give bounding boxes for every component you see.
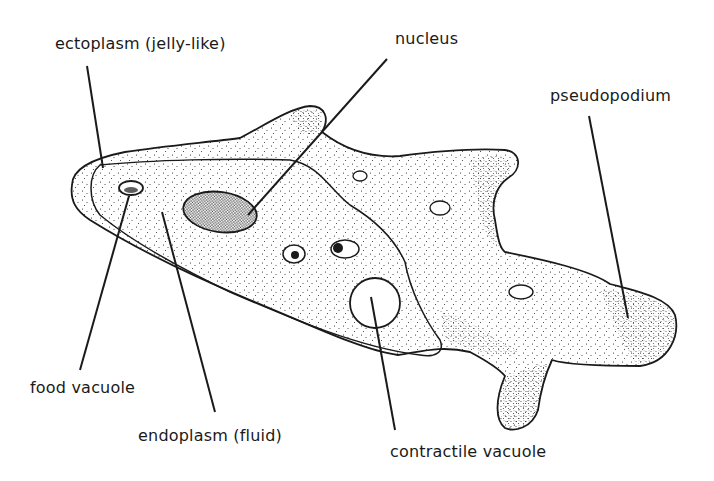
small-vacuole-2: [430, 201, 450, 215]
leader-ectoplasm: [87, 66, 103, 168]
amoeba-diagram: [0, 0, 714, 481]
food-vacuole-1-content: [124, 187, 138, 193]
label-pseudopodium: pseudopodium: [550, 86, 671, 105]
food-vacuole-3-content: [333, 243, 343, 253]
label-ectoplasm: ectoplasm (jelly-like): [55, 34, 226, 53]
label-contractile-vacuole: contractile vacuole: [390, 442, 546, 461]
label-endoplasm: endoplasm (fluid): [138, 426, 282, 445]
small-vacuole-3: [509, 285, 533, 299]
food-vacuole-2-content: [291, 251, 299, 259]
label-nucleus: nucleus: [395, 29, 458, 48]
amoeba-body: [72, 106, 677, 429]
label-food-vacuole: food vacuole: [30, 378, 135, 397]
small-vacuole-1: [353, 171, 367, 181]
